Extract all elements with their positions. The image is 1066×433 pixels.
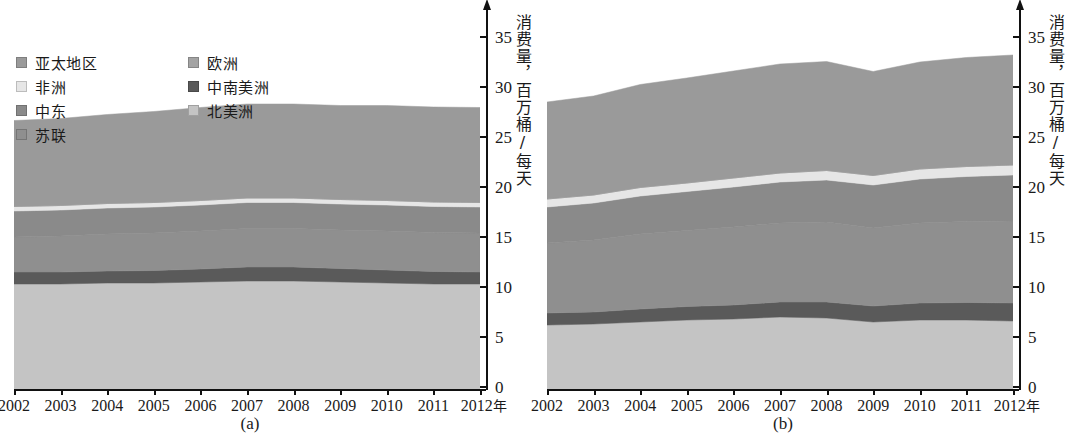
x-axis-tick xyxy=(920,389,922,395)
legend-swatch-north-america xyxy=(188,105,199,116)
x-axis-tick xyxy=(640,389,642,395)
x-axis-tick-label: 2008 xyxy=(811,396,843,416)
x-axis-tick-label: 2009 xyxy=(324,396,356,416)
y-axis-tick xyxy=(1013,336,1020,338)
legend-column-2: 欧洲 中南美洲 北美洲 xyxy=(188,50,269,122)
y-axis-tick-label: 5 xyxy=(1028,329,1037,346)
x-axis-tick xyxy=(1013,389,1015,395)
legend-swatch-europe xyxy=(188,57,199,68)
legend-label-asia-pacific: 亚太地区 xyxy=(35,52,97,73)
y-axis-tick-label: 0 xyxy=(1028,379,1037,396)
x-axis-tick xyxy=(61,389,63,395)
legend-item: 非洲 xyxy=(16,74,97,98)
x-axis-tick-label: 2010 xyxy=(904,396,936,416)
x-axis-tick-label: 2012年 xyxy=(461,396,507,416)
y-axis-title-a: 消费量，百万桶/每天 xyxy=(508,14,532,314)
y-axis-b: 05101520253035 xyxy=(1019,8,1025,396)
legend-swatch-africa xyxy=(16,81,27,92)
x-axis-tick-label: 2011 xyxy=(418,396,449,416)
legend-item: 中东 xyxy=(16,98,97,122)
panel-a: 亚太地区 非洲 中东 苏联 欧洲 xyxy=(0,0,533,433)
x-axis-tick xyxy=(247,389,249,395)
y-axis-spine xyxy=(486,8,488,390)
x-axis-tick xyxy=(14,389,16,395)
x-axis-tick-label: 2004 xyxy=(91,396,123,416)
y-axis-title-b: 消费量，百万桶/每天 xyxy=(1041,14,1065,314)
y-axis-tick-label: 5 xyxy=(495,329,504,346)
x-axis-tick-label: 2003 xyxy=(45,396,77,416)
x-axis-tick xyxy=(387,389,389,395)
x-axis-tick-label: 2009 xyxy=(857,396,889,416)
legend-item: 北美洲 xyxy=(188,98,269,122)
legend-item: 苏联 xyxy=(16,122,97,146)
legend-swatch-central-south-america xyxy=(188,81,199,92)
x-axis-tick xyxy=(594,389,596,395)
area-series-北美洲 xyxy=(547,317,1013,390)
x-axis-tick xyxy=(733,389,735,395)
y-axis-arrow-icon xyxy=(483,0,491,10)
x-axis-tick-label: 2006 xyxy=(184,396,216,416)
stacked-area-figure: 亚太地区 非洲 中东 苏联 欧洲 xyxy=(0,0,1066,433)
x-axis-tick-label: 2002 xyxy=(531,396,563,416)
legend-swatch-middle-east xyxy=(16,105,27,116)
y-axis-arrow-icon xyxy=(1016,0,1024,10)
y-axis-a: 05101520253035 xyxy=(486,8,492,396)
x-axis-tick-label: 2010 xyxy=(371,396,403,416)
y-axis-tick xyxy=(480,236,487,238)
legend-label-north-america: 北美洲 xyxy=(207,100,254,121)
panel-b: 05101520253035 消费量，百万桶/每天 20022003200420… xyxy=(533,0,1066,433)
x-axis-tick-label: 2003 xyxy=(578,396,610,416)
x-axis-tick xyxy=(966,389,968,395)
y-axis-tick xyxy=(480,86,487,88)
x-axis-tick xyxy=(340,389,342,395)
x-axis-tick-label: 2002 xyxy=(0,396,30,416)
y-axis-tick xyxy=(1013,186,1020,188)
legend-label-soviet-union: 苏联 xyxy=(35,124,66,145)
panel-caption-a: (a) xyxy=(0,414,500,433)
y-axis-tick xyxy=(1013,286,1020,288)
y-axis-tick xyxy=(1013,86,1020,88)
x-axis-tick-label: 2007 xyxy=(231,396,263,416)
panel-caption-b: (b) xyxy=(533,414,1033,433)
legend-column-1: 亚太地区 非洲 中东 苏联 xyxy=(16,50,97,146)
x-axis-tick xyxy=(827,389,829,395)
y-axis-tick xyxy=(480,136,487,138)
legend-swatch-asia-pacific xyxy=(16,57,27,68)
y-axis-tick xyxy=(480,336,487,338)
y-axis-tick xyxy=(1013,386,1020,388)
x-axis-tick xyxy=(154,389,156,395)
y-axis-tick xyxy=(480,36,487,38)
legend-swatch-soviet-union xyxy=(16,129,27,140)
x-axis-unit-label: 年 xyxy=(1026,398,1040,414)
x-axis-tick xyxy=(547,389,549,395)
y-axis-tick-label: 0 xyxy=(495,379,504,396)
x-axis-tick-label: 2005 xyxy=(138,396,170,416)
x-axis-tick-label: 2011 xyxy=(951,396,982,416)
legend-item: 亚太地区 xyxy=(16,50,97,74)
x-axis-tick xyxy=(873,389,875,395)
legend-label-africa: 非洲 xyxy=(35,76,66,97)
y-axis-tick xyxy=(480,386,487,388)
y-axis-tick xyxy=(1013,36,1020,38)
x-axis-tick xyxy=(294,389,296,395)
x-axis-unit-label: 年 xyxy=(493,398,507,414)
legend-label-europe: 欧洲 xyxy=(207,52,238,73)
x-axis-tick xyxy=(200,389,202,395)
y-axis-spine xyxy=(1019,8,1021,390)
x-axis-tick xyxy=(107,389,109,395)
x-axis-tick-label: 2006 xyxy=(717,396,749,416)
y-axis-tick xyxy=(1013,136,1020,138)
x-axis-tick xyxy=(687,389,689,395)
legend-label-central-south-america: 中南美洲 xyxy=(207,76,269,97)
x-axis-tick-label: 2005 xyxy=(671,396,703,416)
x-axis-tick xyxy=(433,389,435,395)
x-axis-tick-label: 2007 xyxy=(764,396,796,416)
x-axis-tick-label: 2004 xyxy=(624,396,656,416)
x-axis-tick xyxy=(780,389,782,395)
x-axis-tick-label: 2012年 xyxy=(994,396,1040,416)
legend-label-middle-east: 中东 xyxy=(35,100,66,121)
x-axis-tick-label: 2008 xyxy=(278,396,310,416)
x-axis-b xyxy=(547,389,1019,391)
area-series-北美洲 xyxy=(14,281,480,390)
x-axis-a xyxy=(14,389,486,391)
